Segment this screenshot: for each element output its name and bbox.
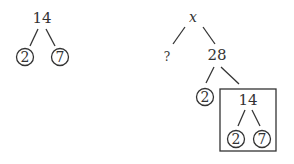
boxed-leaf-2: 7 bbox=[258, 131, 267, 147]
right-factor-tree: x ? 28 2 14 2 7 bbox=[164, 9, 276, 151]
left-leaf-2: 7 bbox=[56, 49, 65, 65]
left-factor-tree: 14 2 7 bbox=[17, 9, 69, 66]
right-branch-right bbox=[203, 27, 215, 44]
right-branch-left bbox=[173, 27, 185, 44]
left-branch-1 bbox=[30, 29, 38, 46]
left-leaf-1: 2 bbox=[21, 49, 30, 65]
factor-28-label: 28 bbox=[207, 46, 226, 64]
boxed-branch-2 bbox=[252, 110, 260, 126]
boxed-leaf-1: 2 bbox=[232, 131, 241, 147]
boxed-branch-1 bbox=[238, 110, 245, 126]
branch-28-right bbox=[221, 67, 239, 84]
left-root-label: 14 bbox=[32, 9, 51, 27]
right-leaf-2: 2 bbox=[201, 89, 210, 105]
unknown-factor-label: ? bbox=[164, 50, 170, 64]
right-root-label: x bbox=[189, 9, 197, 25]
boxed-root-label: 14 bbox=[238, 91, 257, 109]
left-branch-2 bbox=[46, 29, 55, 46]
branch-28-left bbox=[206, 67, 214, 83]
factor-tree-diagram: 14 2 7 x ? 28 2 14 2 7 bbox=[0, 0, 294, 164]
